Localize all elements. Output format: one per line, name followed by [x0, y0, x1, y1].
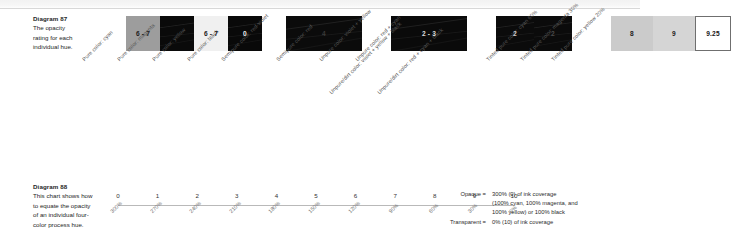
hue-label-group: Pure color: cyanPure color: magentaPure … [0, 0, 640, 170]
hue-label-semipure-red-violet: Semipure color: red-violet [220, 13, 270, 63]
scale-tick-percent-4: 180% [267, 200, 281, 214]
scale-tick-percent-6: 120% [347, 200, 361, 214]
diagram-88-caption-line-3: of an individual four- [33, 210, 121, 219]
scale-tick-percent-1: 270% [149, 200, 163, 214]
swatch-tinted-yellow-20: 9.25 [695, 16, 731, 51]
legend-row-transparent: Transparent = 0% (10) of ink coverage [430, 218, 635, 227]
legend-row-opaque: Opaque = 300% (0) of ink coverage (100% … [430, 190, 635, 218]
swatch-value-semipure-red: 2 - 3 [422, 30, 436, 37]
swatch-tinted-magenta-30: 9 [653, 16, 695, 51]
scale-tick-number-0: 0 [116, 192, 119, 199]
hue-label-semipure-red: Semipure color: red [275, 23, 314, 62]
hue-label-pure-cyan: Pure color: cyan [81, 29, 114, 62]
diagram-88-caption-line-2: to equate the opacity [33, 201, 121, 210]
legend-definition-opaque: 300% (0) of ink coverage (100% cyan, 100… [492, 190, 635, 218]
scale-tick-number-1: 1 [156, 192, 159, 199]
swatch-value-unpure-violet-yellow: 2 [513, 30, 517, 37]
scale-tick-number-7: 7 [393, 192, 396, 199]
diagram-88-caption: Diagram 88 This chart shows how to equat… [33, 182, 121, 229]
swatch-value-pure-yellow: 6 - 7 [204, 30, 218, 37]
scale-tick-number-2: 2 [195, 192, 198, 199]
scale-tick-number-5: 5 [314, 192, 317, 199]
legend-opaque-line-1: 300% (0) of ink coverage [492, 190, 635, 199]
legend-term-opaque: Opaque = [430, 190, 492, 199]
scale-tick-number-3: 3 [235, 192, 238, 199]
hue-label-pure-magenta: Pure color: magenta [116, 22, 156, 62]
swatch-value-pure-cyan: 6 - 7 [136, 30, 150, 37]
swatch-value-tinted-magenta-30: 9 [672, 30, 676, 37]
diagram-88-title: Diagram 88 [33, 182, 121, 191]
scale-tick-percent-2: 240% [188, 200, 202, 214]
hue-label-tinted-yellow-20: Tinted pure color: yellow 20% [550, 6, 606, 62]
scale-tick-number-6: 6 [354, 192, 357, 199]
ink-coverage-legend: Opaque = 300% (0) of ink coverage (100% … [430, 190, 635, 227]
swatch-value-unpure-red-cyan: 2 [551, 30, 555, 37]
legend-term-transparent: Transparent = [430, 218, 492, 227]
swatch-value-semipure-red-violet: 4 [322, 30, 326, 37]
swatch-value-tinted-cyan-60: 8 [630, 30, 634, 37]
scale-tick-percent-3: 210% [228, 200, 242, 214]
diagram-88-caption-line-1: This chart shows how [33, 191, 121, 200]
scale-tick-number-4: 4 [275, 192, 278, 199]
hue-label-pure-yellow: Pure color: yellow [151, 27, 187, 63]
diagram-88-caption-line-4: color process hue. [33, 220, 121, 229]
swatch-value-pure-black: 0 [243, 30, 247, 37]
legend-definition-transparent: 0% (10) of ink coverage [492, 218, 635, 227]
legend-opaque-line-2: (100% cyan, 100% magenta, and [492, 199, 635, 208]
legend-opaque-line-3: 100% yellow) or 100% black [492, 208, 635, 217]
legend-transparent-line-1: 0% (10) of ink coverage [492, 218, 635, 227]
hue-label-tinted-magenta-30: Tinted pure color: magenta 30% [519, 2, 579, 62]
swatch-value-tinted-yellow-20: 9.25 [706, 30, 720, 37]
scale-tick-percent-5: 150% [307, 200, 321, 214]
